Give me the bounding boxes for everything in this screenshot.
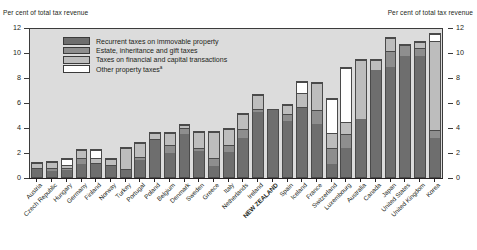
- x-tick-3: [81, 179, 82, 182]
- x-tick-4: [95, 179, 96, 182]
- bar-france: [311, 82, 323, 178]
- bar-segment-0: [106, 166, 116, 177]
- bar-segment-2: [341, 122, 351, 134]
- bar-segment-0: [371, 70, 381, 177]
- y-label-left-2: 2: [8, 149, 21, 156]
- legend-swatch-1: [63, 47, 90, 55]
- y-label-left-8: 8: [8, 74, 21, 81]
- bar-segment-1: [386, 51, 396, 67]
- legend-item-1: Estate, inheritance and gift taxes: [63, 46, 227, 54]
- bar-segment-3: [91, 150, 101, 158]
- bar-segment-0: [224, 152, 234, 177]
- bar-segment-2: [224, 129, 234, 145]
- bar-sweden: [193, 131, 205, 179]
- bar-segment-0: [327, 164, 337, 177]
- bar-segment-0: [150, 140, 160, 177]
- bar-segment-1: [238, 129, 248, 139]
- bar-switzerland: [326, 98, 338, 178]
- bar-segment-0: [165, 153, 175, 177]
- bar-segment-2: [297, 93, 307, 108]
- y-label-right-10: 10: [456, 49, 469, 56]
- bar-czech-republic: [46, 161, 58, 179]
- x-tick-1: [51, 179, 52, 182]
- legend-footnote-marker: a: [160, 65, 163, 70]
- x-tick-15: [257, 179, 258, 182]
- x-tick-20: [331, 179, 332, 182]
- bar-portugal: [134, 142, 146, 178]
- bar-united-states: [399, 44, 411, 178]
- y-label-right-2: 2: [456, 149, 469, 156]
- bar-segment-1: [165, 145, 175, 153]
- bar-spain: [282, 104, 294, 178]
- bar-poland: [149, 132, 161, 178]
- y-tick-right-4: [448, 128, 453, 129]
- bar-netherlands: [237, 113, 249, 178]
- bar-segment-0: [312, 124, 322, 177]
- bar-segment-2: [194, 132, 204, 149]
- bar-segment-2: [238, 114, 248, 129]
- bar-segment-1: [327, 148, 337, 164]
- y-tick-right-0: [448, 178, 453, 179]
- bar-segment-2: [165, 133, 175, 145]
- bar-segment-0: [194, 151, 204, 177]
- x-tick-21: [345, 179, 346, 182]
- bar-segment-2: [327, 133, 337, 148]
- bar-segment-2: [121, 148, 131, 169]
- legend-label-0: Recurrent taxes on immovable property: [96, 38, 219, 45]
- bar-turkey: [120, 147, 132, 178]
- x-tick-11: [198, 179, 199, 182]
- bar-segment-1: [400, 45, 410, 56]
- legend-label-3: Other property taxesa: [96, 66, 162, 73]
- x-tick-23: [375, 179, 376, 182]
- bar-segment-0: [47, 171, 57, 177]
- y-tick-left-6: [24, 103, 29, 104]
- bar-norway: [105, 158, 117, 178]
- bar-segment-2: [209, 132, 219, 158]
- bar-segment-3: [297, 82, 307, 93]
- bar-segment-0: [341, 148, 351, 177]
- bar-segment-0: [283, 121, 293, 177]
- bar-segment-2: [312, 83, 322, 110]
- x-tick-26: [419, 179, 420, 182]
- bar-segment-0: [386, 67, 396, 177]
- bar-segment-1: [415, 48, 425, 57]
- bar-hungary: [61, 158, 73, 178]
- bar-segment-2: [386, 38, 396, 52]
- y-label-left-12: 12: [8, 24, 21, 31]
- bar-segment-0: [238, 138, 248, 177]
- bar-segment-2: [356, 60, 366, 119]
- x-tick-14: [242, 179, 243, 182]
- bar-segment-3: [341, 68, 351, 122]
- bar-segment-0: [77, 164, 87, 177]
- y-tick-left-2: [24, 153, 29, 154]
- y-tick-right-6: [448, 103, 453, 104]
- legend-swatch-0: [63, 37, 90, 45]
- y-label-right-12: 12: [456, 24, 469, 31]
- bar-segment-1: [283, 114, 293, 121]
- bar-segment-0: [415, 56, 425, 177]
- y-tick-right-8: [448, 78, 453, 79]
- bar-segment-2: [430, 41, 440, 130]
- y-label-left-6: 6: [8, 99, 21, 106]
- y-label-left-4: 4: [8, 124, 21, 131]
- bar-segment-2: [253, 95, 263, 108]
- left-axis-title: Per cent of total tax revenue: [3, 9, 88, 16]
- right-axis-title: Per cent of total tax revenue: [388, 9, 473, 16]
- x-tick-12: [213, 179, 214, 182]
- x-tick-27: [434, 179, 435, 182]
- chart-legend: Recurrent taxes on immovable propertyEst…: [63, 37, 227, 75]
- bar-korea: [429, 33, 441, 178]
- bar-segment-0: [253, 112, 263, 177]
- bar-segment-1: [224, 145, 234, 152]
- bar-japan: [385, 37, 397, 178]
- x-tick-9: [169, 179, 170, 182]
- bar-segment-2: [47, 162, 57, 169]
- y-label-left-10: 10: [8, 49, 21, 56]
- bar-finland: [90, 149, 102, 178]
- y-tick-left-8: [24, 78, 29, 79]
- bar-segment-0: [135, 160, 145, 177]
- y-tick-left-10: [24, 53, 29, 54]
- bar-denmark: [179, 124, 191, 178]
- x-tick-2: [66, 179, 67, 182]
- x-tick-25: [404, 179, 405, 182]
